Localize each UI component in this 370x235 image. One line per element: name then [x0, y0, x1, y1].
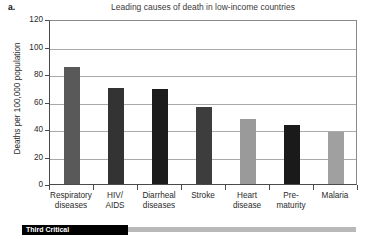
- chart-title: Leading causes of death in low-income co…: [49, 2, 357, 12]
- x-tick-mark: [49, 185, 50, 190]
- x-tick-mark: [269, 185, 270, 190]
- bar: [328, 132, 344, 184]
- x-tick-mark: [137, 185, 138, 190]
- x-tick-mark: [93, 185, 94, 190]
- x-tick-mark: [225, 185, 226, 190]
- bottom-rule: [128, 227, 356, 232]
- bar: [108, 88, 124, 184]
- y-tick-label: 80: [34, 71, 43, 79]
- x-label-line: maturity: [263, 201, 319, 211]
- panel-letter: a.: [8, 2, 15, 12]
- bar: [240, 119, 256, 184]
- y-tick-label: 60: [34, 99, 43, 107]
- x-category-label: Malaria: [307, 191, 363, 201]
- x-label-line: diseases: [131, 201, 187, 211]
- y-tick-label: 120: [29, 16, 43, 24]
- y-tick-label: 20: [34, 154, 43, 162]
- figure-panel-a: a. Leading causes of death in low-income…: [0, 0, 370, 235]
- bar: [64, 67, 80, 184]
- gridline: [50, 104, 356, 105]
- x-tick-mark: [313, 185, 314, 190]
- x-tick-mark: [357, 185, 358, 190]
- y-tick-label: 0: [38, 181, 43, 189]
- plot-area: [49, 20, 357, 185]
- bar: [196, 107, 212, 184]
- bottom-banner: Third Critical: [22, 225, 128, 235]
- y-tick-label: 100: [29, 44, 43, 52]
- bar: [152, 89, 168, 184]
- y-axis-title: Deaths per 100,000 population: [13, 14, 22, 184]
- gridline: [50, 49, 356, 50]
- bar: [284, 125, 300, 184]
- x-label-line: Malaria: [307, 191, 363, 201]
- bottom-banner-label: Third Critical: [26, 226, 69, 233]
- x-tick-mark: [181, 185, 182, 190]
- y-tick-label: 40: [34, 126, 43, 134]
- gridline: [50, 76, 356, 77]
